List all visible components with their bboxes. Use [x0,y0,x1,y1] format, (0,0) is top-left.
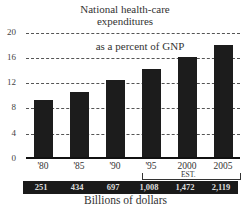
dollar-value-2000: 1,472 [167,182,203,192]
bar-1980 [34,100,53,159]
ytick-12: 12 [2,77,16,87]
xtick-1980: '80 [28,161,58,171]
xtick-1990: '90 [100,161,130,171]
gridline-20 [26,33,240,34]
bar-1990 [106,80,125,159]
dollars-caption: Billions of dollars [0,194,251,206]
xtick-1985: '85 [64,161,94,171]
chart-subtitle: as a percent of GNP [70,40,210,52]
dollar-values-row: 251 434 697 1,008 1,472 2,119 [23,181,238,194]
ytick-4: 4 [2,128,16,138]
x-axis [26,157,240,159]
dollar-value-1980: 251 [23,182,59,192]
xtick-1995: '95 [136,161,166,171]
dollar-value-1990: 697 [95,182,131,192]
ytick-20: 20 [2,27,16,37]
xtick-2005: 2005 [208,161,238,171]
gridline-8 [26,108,240,109]
bar-2000 [178,57,197,159]
dollar-value-1985: 434 [59,182,95,192]
estimate-label: EST. [179,170,198,179]
gridline-4 [26,134,240,135]
bar-2005 [214,45,233,159]
ytick-0: 0 [2,153,16,163]
bar-1995 [142,69,161,159]
chart-title-line1: National health-care [40,3,210,15]
dollar-value-2005: 2,119 [203,182,239,192]
ytick-8: 8 [2,102,16,112]
gridline-12 [26,83,240,84]
estimate-bracket: EST. [142,173,241,180]
gridline-16 [26,58,240,59]
dollar-value-1995: 1,008 [131,182,167,192]
ytick-16: 16 [2,52,16,62]
chart-title-line2: expenditures [40,15,210,27]
bar-1985 [70,92,89,159]
